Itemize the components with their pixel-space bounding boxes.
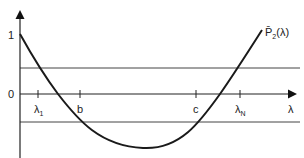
tick-label-lambda-1: λ1 [34,103,44,117]
y-label-one: 1 [8,29,14,41]
tick-label-lambda-n: λN [235,103,246,117]
y-axis-arrow-icon [16,10,25,19]
tick-label-b: b [77,103,83,115]
y-label-zero: 0 [8,88,14,100]
x-axis-label: λ [288,103,294,115]
curve-label: P̄2(λ) [265,26,289,40]
tick-label-c: c [193,103,199,115]
polynomial-diagram: 1 0 λ λ1 b c λN P̄2(λ) [0,0,304,158]
x-axis-arrow-icon [288,90,297,99]
polynomial-curve [20,30,262,148]
